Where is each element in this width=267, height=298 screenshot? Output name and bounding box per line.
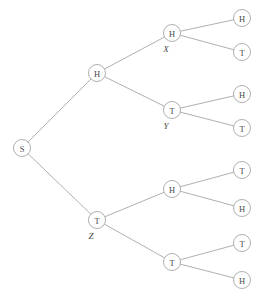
tree-edge: [28, 79, 91, 142]
tree-node-ht: TY: [163, 102, 180, 131]
tree-node-leaf7: T: [234, 235, 251, 252]
node-annotation-x: X: [162, 44, 169, 54]
node-label: T: [239, 239, 245, 249]
node-label: H: [239, 204, 245, 214]
tree-node-t1: TZ: [88, 212, 105, 241]
tree-node-leaf3: H: [234, 86, 251, 103]
tree-node-leaf1: H: [234, 10, 251, 27]
tree-edge: [180, 20, 233, 31]
tree-edge: [180, 264, 234, 278]
node-label: H: [239, 90, 245, 100]
node-label: T: [169, 106, 175, 116]
tree-edge: [180, 96, 233, 108]
tree-edge: [180, 172, 234, 187]
node-annotation-y: Y: [163, 121, 169, 131]
tree-node-leaf6: H: [234, 200, 251, 217]
tree-node-leaf4: T: [234, 120, 251, 137]
tree-node-tt: T: [164, 254, 181, 271]
tree-edge: [105, 77, 165, 106]
tree-node-s: S: [14, 140, 31, 157]
node-label: H: [169, 185, 175, 195]
tree-node-h1: H: [89, 65, 106, 82]
node-label: H: [239, 14, 245, 24]
tree-node-leaf5: T: [234, 162, 251, 179]
tree-node-hh: HX: [162, 25, 180, 54]
tree-node-leaf2: T: [234, 44, 251, 61]
node-label: T: [239, 124, 245, 134]
nodes-layer: SHTZHXTYHTHTHTTHTH: [14, 10, 251, 289]
tree-edge: [180, 112, 234, 126]
node-label: T: [169, 258, 175, 268]
tree-edge: [180, 35, 234, 50]
tree-node-leaf8: H: [234, 272, 251, 289]
tree-edge: [180, 191, 234, 206]
node-label: H: [94, 69, 100, 79]
node-label: H: [239, 276, 245, 286]
tree-node-th: H: [164, 181, 181, 198]
tree-edge: [105, 37, 165, 69]
node-label: T: [94, 216, 100, 226]
tree-edge: [180, 245, 234, 260]
tree-edge: [28, 154, 91, 214]
probability-tree-diagram: SHTZHXTYHTHTHTTHTH: [0, 0, 267, 298]
tree-edge: [105, 192, 164, 217]
node-label: T: [239, 48, 245, 58]
tree-edge: [104, 224, 164, 258]
edges-layer: [28, 20, 234, 278]
node-annotation-z: Z: [88, 231, 94, 241]
tree-canvas: SHTZHXTYHTHTHTTHTH: [0, 0, 267, 298]
node-label: T: [239, 166, 245, 176]
node-label: H: [169, 29, 175, 39]
node-label: S: [20, 144, 25, 154]
